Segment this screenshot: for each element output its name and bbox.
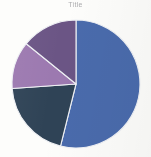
pie-chart-svg — [0, 0, 151, 157]
pie-slice-group — [12, 20, 140, 148]
pie-chart-figure: Title — [0, 0, 151, 157]
